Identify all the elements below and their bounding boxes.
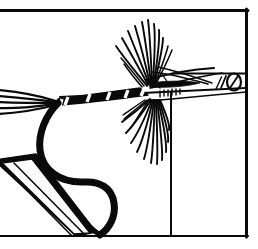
figure-root: Fly tying step illustration — [0, 0, 258, 249]
tail-fiber — [0, 102, 56, 103]
fly-tying-illustration — [0, 0, 258, 249]
paper-background — [0, 0, 258, 249]
